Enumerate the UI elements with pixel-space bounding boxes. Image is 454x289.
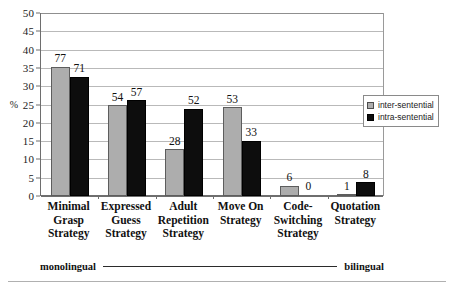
category-label-line: Strategy — [93, 227, 158, 241]
y-axis-tick-label: 25 — [23, 99, 34, 110]
bar-value-label: 71 — [73, 63, 85, 75]
bar-inter-sentential — [337, 194, 356, 196]
y-axis-tick-label: 15 — [23, 136, 34, 147]
legend-swatch-icon-intra — [367, 114, 374, 121]
x-axis-category-labels: MinimalGraspStrategyExpressedGuessStrate… — [40, 200, 384, 250]
bars-layer: 77715457285253336018 — [41, 13, 383, 196]
bar-group: 5457 — [98, 13, 155, 196]
y-axis-tick-label: 40 — [23, 44, 34, 55]
category-label-line: Switching — [265, 214, 330, 228]
category-label: Code-SwitchingStrategy — [265, 200, 330, 241]
x-axis-tick-mark — [156, 195, 157, 199]
category-label: MinimalGraspStrategy — [36, 200, 101, 241]
category-label-line: Minimal — [36, 200, 101, 214]
bar-value-label: 57 — [131, 87, 143, 99]
bar-value-label: 54 — [112, 92, 124, 104]
category-label: Move OnStrategy — [208, 200, 273, 227]
legend-item-intra-sentential: intra-sentential — [367, 111, 434, 123]
bar-value-label: 33 — [245, 127, 257, 139]
category-label-line: Strategy — [265, 227, 330, 241]
bar-value-label: 6 — [287, 172, 293, 184]
x-axis-tick-mark — [270, 195, 271, 199]
bar-value-label: 28 — [169, 136, 181, 148]
x-axis-tick-mark — [213, 195, 214, 199]
continuum-right-label: bilingual — [344, 261, 384, 272]
bar-value-label: 53 — [226, 94, 238, 106]
category-label-line: Grasp — [36, 214, 101, 228]
y-axis-unit-label: % — [10, 100, 18, 110]
y-axis-tick-label: 30 — [23, 81, 34, 92]
y-axis: 50454035302520151050% — [0, 13, 40, 196]
bar-inter-sentential — [280, 186, 299, 196]
x-axis-tick-mark — [98, 195, 99, 199]
bar-group: 7771 — [41, 13, 98, 196]
bar-intra-sentential — [70, 77, 89, 196]
bar-group: 5333 — [213, 13, 270, 196]
category-label-line: Quotation — [323, 200, 388, 214]
y-axis-tick-label: 35 — [23, 62, 34, 73]
x-axis-tick-mark — [328, 195, 329, 199]
category-label-line: Strategy — [151, 227, 216, 241]
bar-value-label: 1 — [344, 181, 350, 193]
continuum-line — [103, 266, 337, 267]
y-axis-tick-label: 0 — [28, 191, 34, 202]
plot-area: 77715457285253336018 — [40, 13, 384, 196]
bar-intra-sentential — [356, 182, 375, 196]
bar-chart-figure: 50454035302520151050% 777154572852533360… — [0, 0, 454, 289]
category-label-line: Code- — [265, 200, 330, 214]
legend-label-intra: intra-sentential — [378, 112, 434, 122]
y-axis-tick-label: 50 — [23, 8, 34, 19]
category-label: QuotationStrategy — [323, 200, 388, 227]
category-label: ExpressedGuessStrategy — [93, 200, 158, 241]
bar-intra-sentential — [127, 100, 146, 196]
bottom-divider — [8, 281, 446, 282]
bar-value-label: 77 — [54, 53, 66, 65]
bar-inter-sentential — [51, 67, 70, 196]
legend-label-inter: inter-sentential — [378, 100, 434, 110]
bar-value-label: 0 — [306, 181, 312, 193]
bar-intra-sentential — [242, 141, 261, 196]
bar-value-label: 8 — [363, 169, 369, 181]
bar-group: 60 — [270, 13, 327, 196]
category-label-line: Expressed — [93, 200, 158, 214]
category-label-line: Adult — [151, 200, 216, 214]
y-axis-tick-label: 45 — [23, 26, 34, 37]
category-label-line: Strategy — [208, 214, 273, 228]
continuum-left-label: monolingual — [40, 261, 96, 272]
bar-group: 2852 — [156, 13, 213, 196]
bar-intra-sentential — [184, 109, 203, 196]
bar-inter-sentential — [165, 149, 184, 196]
category-label-line: Guess — [93, 214, 158, 228]
category-label-line: Strategy — [36, 227, 101, 241]
category-label-line: Strategy — [323, 214, 388, 228]
bar-value-label: 52 — [188, 95, 200, 107]
bar-inter-sentential — [108, 105, 127, 196]
legend-swatch-icon-inter — [367, 102, 374, 109]
continuum-annotation: monolingual bilingual — [40, 258, 384, 274]
category-label-line: Move On — [208, 200, 273, 214]
bar-inter-sentential — [223, 107, 242, 196]
category-label-line: Repetition — [151, 214, 216, 228]
category-label: AdultRepetitionStrategy — [151, 200, 216, 241]
y-axis-tick-label: 10 — [23, 154, 34, 165]
y-axis-tick-label: 20 — [23, 117, 34, 128]
y-axis-tick-label: 5 — [28, 172, 34, 183]
chart-legend: inter-sentential intra-sentential — [363, 95, 439, 127]
legend-item-inter-sentential: inter-sentential — [367, 99, 434, 111]
